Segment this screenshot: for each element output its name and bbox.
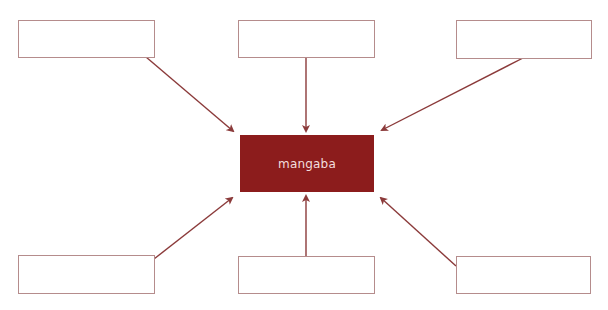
arrow-bottom-right (381, 198, 456, 266)
box-top-center (238, 20, 375, 58)
box-top-left (18, 20, 155, 58)
center-node: mangaba (240, 135, 374, 192)
concept-map-diagram: mangaba (0, 0, 608, 310)
box-bottom-right (456, 256, 591, 294)
box-top-right (456, 20, 592, 59)
center-node-label: mangaba (278, 157, 336, 171)
arrow-top-left (146, 57, 233, 131)
arrow-bottom-left (154, 198, 232, 259)
box-bottom-center (238, 256, 375, 294)
box-bottom-left (18, 255, 155, 294)
arrow-top-right (382, 58, 523, 130)
